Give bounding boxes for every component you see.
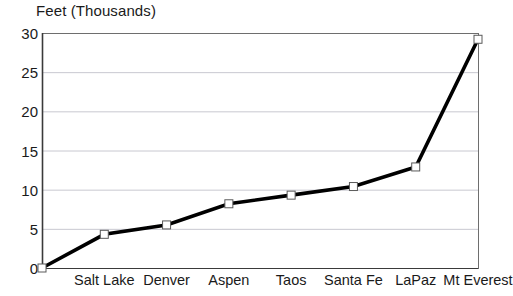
x-axis-tick-label: Taos [276,272,307,288]
data-point-marker [225,200,233,208]
x-axis-tick-label: Denver [143,272,190,288]
data-point-marker [287,191,295,199]
data-point-marker [412,163,420,171]
x-axis-tick-label: Mt Everest [443,272,512,288]
x-axis-tick-label: Aspen [208,272,249,288]
x-axis-tick-label: LaPaz [395,272,436,288]
data-point-marker [163,221,171,229]
data-point-marker [474,35,482,43]
x-axis-tick-label: Salt Lake [74,272,134,288]
data-point-marker [38,264,46,272]
data-point-marker [349,183,357,191]
data-point-marker [100,230,108,238]
x-axis-tick-labels: Salt LakeDenverAspenTaosSanta FeLaPazMt … [0,272,512,296]
x-axis-tick-label: Santa Fe [324,272,383,288]
data-series-markers [38,35,482,272]
